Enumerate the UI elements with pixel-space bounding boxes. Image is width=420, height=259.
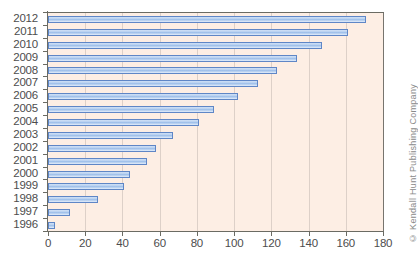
bar: [48, 183, 124, 190]
bar: [48, 93, 238, 100]
x-axis-tick: [234, 232, 235, 236]
bar-row: [48, 65, 383, 78]
y-axis-tick-label: 2001: [0, 154, 43, 167]
x-axis-tick-label: 100: [225, 237, 244, 249]
y-axis-tick-label: 2007: [0, 76, 43, 89]
bar: [48, 80, 258, 87]
bar-row: [48, 116, 383, 129]
bar: [48, 42, 322, 49]
bar-row: [48, 103, 383, 116]
x-axis-tick-label: 140: [299, 237, 318, 249]
copyright-credit: © Kendall Hunt Publishing Company: [408, 84, 418, 243]
x-axis-tick-label: 0: [45, 237, 51, 249]
x-axis-tick: [122, 232, 123, 236]
y-axis-tick-label: 1998: [0, 192, 43, 205]
bar: [48, 209, 70, 216]
x-axis-tick-label: 80: [191, 237, 203, 249]
bar: [48, 171, 130, 178]
bar-row: [48, 206, 383, 219]
x-axis-tick: [383, 232, 384, 236]
bar-row: [48, 39, 383, 52]
bar: [48, 106, 214, 113]
bar-row: [48, 90, 383, 103]
bar: [48, 55, 297, 62]
bar-row: [48, 193, 383, 206]
bar-row: [48, 26, 383, 39]
gridline: [383, 13, 384, 232]
plot-area: [48, 12, 384, 232]
bar: [48, 67, 277, 74]
x-axis-tick-label: 180: [374, 237, 393, 249]
bar-row: [48, 168, 383, 181]
y-axis-tick-label: 2004: [0, 115, 43, 128]
y-axis-tick-label: 2002: [0, 141, 43, 154]
bar-row: [48, 155, 383, 168]
bar-row: [48, 52, 383, 65]
x-axis-tick-labels: 020406080100120140160180: [0, 237, 420, 253]
y-axis-tick-label: 1999: [0, 179, 43, 192]
x-axis-tick: [48, 232, 49, 236]
x-axis-tick: [160, 232, 161, 236]
y-axis-line: [47, 11, 48, 232]
y-axis-tick-label: 2003: [0, 128, 43, 141]
bar: [48, 29, 348, 36]
y-axis-tick-label: 2011: [0, 25, 43, 38]
x-axis-tick: [271, 232, 272, 236]
bar-row: [48, 129, 383, 142]
x-axis-tick: [346, 232, 347, 236]
plot-inner: [48, 13, 383, 232]
y-axis-tick-label: 2010: [0, 38, 43, 51]
y-axis-tick-label: 1997: [0, 205, 43, 218]
bar: [48, 145, 156, 152]
x-axis-tick-label: 20: [79, 237, 91, 249]
bar-row: [48, 77, 383, 90]
y-axis-labels: 2012201120102009200820072006200520042003…: [0, 12, 43, 231]
x-axis-tick-label: 160: [336, 237, 355, 249]
x-axis-tick-label: 120: [262, 237, 281, 249]
y-axis-tick-label: 2000: [0, 167, 43, 180]
bars-layer: [48, 13, 383, 232]
y-axis-tick-label: 2009: [0, 51, 43, 64]
bar: [48, 119, 199, 126]
y-axis-tick-label: 1996: [0, 218, 43, 231]
bar-row: [48, 142, 383, 155]
bar-chart: 2012201120102009200820072006200520042003…: [0, 0, 420, 259]
bar: [48, 222, 55, 229]
bar: [48, 132, 173, 139]
bar-row: [48, 180, 383, 193]
y-axis-tick-label: 2006: [0, 89, 43, 102]
bar: [48, 16, 366, 23]
x-axis-tick-label: 60: [153, 237, 165, 249]
x-axis-tick: [85, 232, 86, 236]
y-axis-tick-label: 2005: [0, 102, 43, 115]
bar: [48, 196, 98, 203]
x-axis-tick-label: 40: [116, 237, 128, 249]
y-axis-tick-label: 2008: [0, 64, 43, 77]
bar-row: [48, 13, 383, 26]
y-axis-tick-label: 2012: [0, 12, 43, 25]
x-axis-tick: [197, 232, 198, 236]
bar: [48, 158, 147, 165]
x-axis-tick: [309, 232, 310, 236]
